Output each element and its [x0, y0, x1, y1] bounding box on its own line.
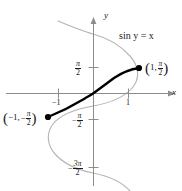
lower-left-point-dot: [45, 114, 51, 120]
y-tick-label-neg-pi-over-2: −π2: [72, 112, 83, 129]
graph-canvas: [0, 0, 182, 191]
y-tick-label-neg-3pi-over-2: −3π2: [68, 160, 83, 177]
full-relation-curve: [48, 21, 137, 191]
upper-right-point-dot: [136, 65, 142, 71]
x-tick-label-1: 1: [126, 99, 130, 107]
lower-left-point-label: (−1, −π2): [3, 110, 36, 127]
upper-right-point-label: (1, π2): [145, 60, 168, 77]
x-tick-label-neg1: −1: [52, 99, 61, 107]
lower-left-point-close-paren: ): [31, 110, 36, 126]
y-tick-neg-3pi-over-2-denominator: 2: [73, 169, 83, 177]
y-tick-pi-over-2-denominator: 2: [75, 69, 81, 77]
y-tick-label-pi-over-2: π2: [75, 60, 81, 77]
lower-left-point-x: −1: [8, 112, 18, 122]
y-tick-neg-pi-over-2-denominator: 2: [77, 121, 83, 129]
x-axis-label: x: [172, 88, 176, 97]
y-axis-label: y: [104, 11, 108, 20]
upper-right-point-close-paren: ): [163, 60, 168, 76]
equation-label: sin y = x: [119, 31, 154, 41]
sin-y-equals-x-graph-figure: y x −1 1 π2 −π2 −3π2 sin y = x (1, π2) (…: [0, 0, 182, 191]
y-axis-arrowhead: [91, 17, 97, 24]
